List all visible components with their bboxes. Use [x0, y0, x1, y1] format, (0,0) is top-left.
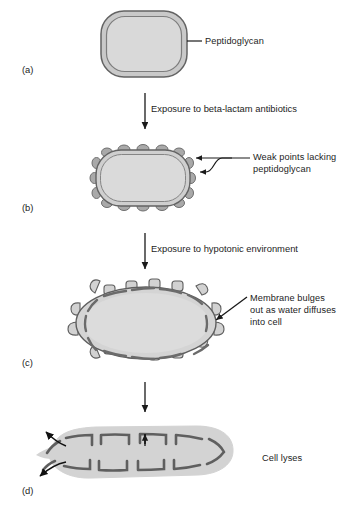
- panel-letter-a: (a): [22, 64, 33, 75]
- panel-letter-c: (c): [22, 357, 33, 368]
- transition-label-a-to-b: Exposure to beta-lactam antibiotics: [151, 103, 297, 114]
- label-membrane-bulges-line2: out as water diffuses: [250, 305, 336, 317]
- panel-b-cell: [90, 145, 196, 212]
- label-membrane-bulges-line1: Membrane bulges: [250, 293, 325, 305]
- label-membrane-bulges-line3: into cell: [250, 317, 282, 329]
- figure-root: (a) (b) (c) (d) Peptidoglycan Weak point…: [0, 0, 358, 509]
- transition-label-b-to-c: Exposure to hypotonic environment: [151, 243, 298, 254]
- weak-points-leader: [196, 158, 250, 172]
- label-cell-lyses: Cell lyses: [262, 453, 302, 465]
- figure-graphics: [0, 0, 358, 509]
- panel-a-cell: [101, 11, 187, 77]
- panel-d-cell: [36, 426, 233, 478]
- label-peptidoglycan: Peptidoglycan: [205, 36, 264, 48]
- panel-c-cell: [68, 279, 224, 360]
- panel-letter-d: (d): [22, 485, 33, 496]
- label-weak-points-line1: Weak points lacking: [253, 152, 336, 164]
- label-weak-points-line2: peptidoglycan: [253, 164, 311, 176]
- panel-letter-b: (b): [22, 202, 33, 213]
